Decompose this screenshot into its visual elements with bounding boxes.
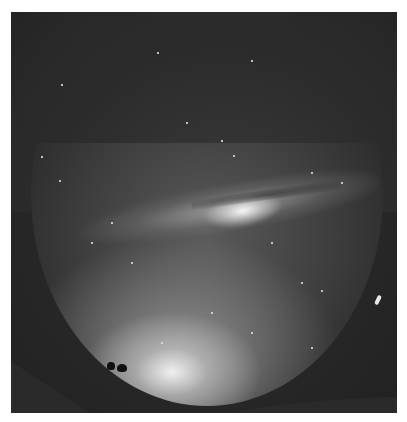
tree-silhouette (107, 362, 115, 370)
bright-light-spot (374, 295, 382, 306)
night-sky-photo (11, 12, 397, 413)
tree-silhouette (117, 364, 127, 372)
